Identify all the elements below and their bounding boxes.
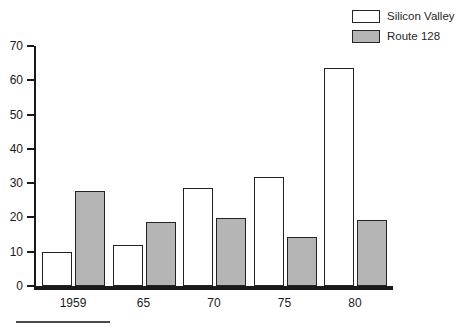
bottom-rule xyxy=(16,321,110,323)
bar-silicon-valley xyxy=(324,68,354,286)
x-axis-tick-label: 1959 xyxy=(60,296,87,310)
y-axis-tick xyxy=(27,114,34,116)
x-axis-tick-label: 70 xyxy=(207,296,220,310)
x-axis-tick-label: 80 xyxy=(348,296,361,310)
y-axis-tick xyxy=(27,45,34,47)
y-axis-tick-label: 70 xyxy=(10,40,23,52)
bar-group xyxy=(253,46,321,286)
bar-route-128 xyxy=(75,191,105,286)
legend-swatch-silicon-valley xyxy=(352,10,380,23)
bar-route-128 xyxy=(216,218,246,286)
x-axis-tick-label: 75 xyxy=(278,296,291,310)
bar-silicon-valley xyxy=(254,177,284,286)
legend-label-silicon-valley: Silicon Valley xyxy=(387,10,455,23)
y-axis-tick-label: 50 xyxy=(10,109,23,121)
y-axis-tick xyxy=(27,182,34,184)
bar-silicon-valley xyxy=(42,252,72,286)
bar-silicon-valley xyxy=(183,188,213,286)
legend-item-route-128: Route 128 xyxy=(352,28,460,45)
x-axis-tick-label: 65 xyxy=(137,296,150,310)
chart-legend: Silicon Valley Route 128 xyxy=(352,8,460,48)
y-axis-line xyxy=(34,46,36,286)
y-axis-tick-label: 10 xyxy=(10,246,23,258)
legend-item-silicon-valley: Silicon Valley xyxy=(352,8,460,25)
bar-group xyxy=(323,46,391,286)
legend-swatch-route-128 xyxy=(352,30,380,43)
y-axis-tick-label: 40 xyxy=(10,143,23,155)
bar-route-128 xyxy=(357,220,387,286)
y-axis-tick xyxy=(27,79,34,81)
legend-label-route-128: Route 128 xyxy=(387,30,440,43)
bar-silicon-valley xyxy=(113,245,143,286)
x-axis-line xyxy=(34,286,393,290)
y-axis-tick xyxy=(27,216,34,218)
y-axis-tick-label: 60 xyxy=(10,74,23,86)
y-axis-tick xyxy=(27,148,34,150)
bar-group xyxy=(41,46,109,286)
y-axis-tick xyxy=(27,285,34,287)
y-axis-tick-label: 0 xyxy=(16,280,23,292)
bar-route-128 xyxy=(287,237,317,286)
bar-chart-figure: Silicon Valley Route 128 010203040506070… xyxy=(0,0,463,335)
bar-group xyxy=(112,46,180,286)
y-axis-tick-label: 30 xyxy=(10,177,23,189)
y-axis-tick xyxy=(27,251,34,253)
bar-group xyxy=(182,46,250,286)
y-axis-tick-label: 20 xyxy=(10,211,23,223)
plot-area: 010203040506070 xyxy=(34,46,393,286)
bar-route-128 xyxy=(146,222,176,286)
